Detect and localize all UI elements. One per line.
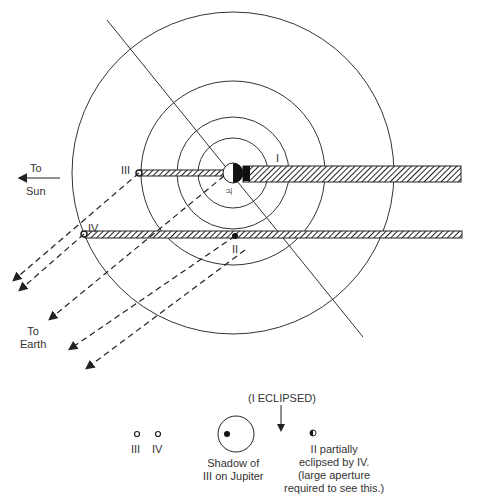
jupiter-shadow-band <box>243 166 461 182</box>
legend-III-label: III <box>131 443 140 456</box>
moon-IV-label: IV <box>88 222 98 235</box>
legend-moon-IV <box>156 432 161 437</box>
shadow-band-IV <box>85 231 462 238</box>
orbit-diagram <box>0 0 481 497</box>
legend-jupiter <box>218 416 254 452</box>
legend-IV-label: IV <box>152 443 162 456</box>
moon-I-label: I <box>276 152 279 165</box>
partial-eclipse-caption: II partially eclipsed by IV. (large aper… <box>284 443 384 495</box>
jupiter-symbol: ♃ <box>224 184 234 197</box>
shadow-band-III <box>140 170 224 176</box>
moon-II-label: II <box>232 243 238 256</box>
moon-III-label: III <box>121 164 130 177</box>
legend-shadow-III <box>224 431 230 437</box>
legend-moon-III <box>135 432 140 437</box>
to-sun-label: To Sun <box>26 162 46 198</box>
to-earth-label: To Earth <box>20 325 46 351</box>
eclipsed-note: (I ECLIPSED) <box>248 392 316 405</box>
shadow-caption: Shadow of III on Jupiter <box>203 457 264 483</box>
